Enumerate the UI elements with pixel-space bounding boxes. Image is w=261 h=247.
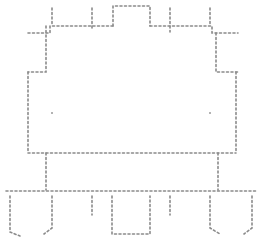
leg-7 bbox=[244, 196, 252, 234]
marker-dot-right bbox=[209, 112, 211, 114]
marker-dot-left bbox=[51, 112, 53, 114]
upper-right-side bbox=[216, 33, 238, 72]
top-right-posts bbox=[170, 8, 210, 32]
leg-2 bbox=[44, 196, 52, 234]
leg-6 bbox=[210, 196, 220, 234]
sketch-diagram bbox=[0, 0, 261, 247]
top-bump bbox=[113, 6, 150, 26]
leg-4 bbox=[112, 196, 150, 234]
hatched-outline-drawing bbox=[0, 0, 261, 247]
leg-1 bbox=[10, 196, 20, 236]
upper-body bbox=[28, 26, 238, 33]
